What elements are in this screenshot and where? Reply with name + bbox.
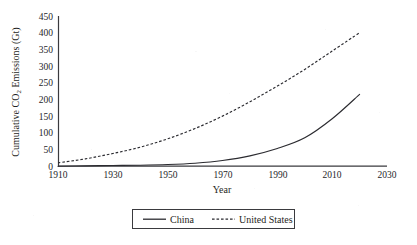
y-tick-100: 100 <box>39 128 54 138</box>
x-axis-title: Year <box>213 184 232 195</box>
x-tick-1970: 1970 <box>214 170 233 180</box>
y-tick-350: 350 <box>39 45 54 55</box>
co2-emissions-line-chart: Cumulative CO2 Emissions (Gt) 450 400 35… <box>0 0 417 245</box>
y-tick-400: 400 <box>39 28 54 38</box>
x-tick-1950: 1950 <box>159 170 178 180</box>
y-tick-300: 300 <box>39 62 54 72</box>
legend-label-china: China <box>170 214 194 225</box>
y-tick-150: 150 <box>39 112 54 122</box>
y-tick-250: 250 <box>39 78 54 88</box>
y-tick-450: 450 <box>39 12 54 22</box>
legend-label-united-states: United States <box>239 214 293 225</box>
x-tick-1910: 1910 <box>49 170 68 180</box>
chart-figure: Cumulative CO2 Emissions (Gt) 450 400 35… <box>0 0 417 245</box>
y-tick-50: 50 <box>44 145 54 155</box>
y-tick-200: 200 <box>39 95 54 105</box>
y-axis-title-post: Emissions (Gt) <box>10 27 22 90</box>
x-tick-2030: 2030 <box>378 170 397 180</box>
x-tick-2010: 2010 <box>323 170 342 180</box>
x-tick-1930: 1930 <box>104 170 123 180</box>
x-tick-1990: 1990 <box>269 170 288 180</box>
y-axis-title-pre: Cumulative CO <box>10 94 21 157</box>
